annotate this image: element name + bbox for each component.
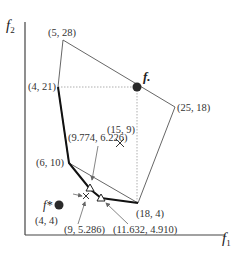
tri2-label: (11.632, 4.910) xyxy=(113,224,178,236)
tri1-label: (9.774, 6.226) xyxy=(68,132,128,144)
f-dot-label: f. xyxy=(143,69,151,84)
ideal-point xyxy=(55,201,64,210)
arrow-cross-bottom xyxy=(78,202,85,224)
f-dot-point xyxy=(133,83,142,92)
objective-space-diagram: f2 f1 (5, 28) (4, 21) (25, 18) (6, 10) (… xyxy=(0,0,242,254)
feasible-region xyxy=(58,40,175,203)
vertex-label-18-4: (18, 4) xyxy=(136,208,164,220)
ideal-point-coord: (4, 4) xyxy=(35,215,58,227)
y-axis-label: f2 xyxy=(6,17,15,35)
cross-marker xyxy=(83,193,89,199)
vertex-label-25-18: (25, 18) xyxy=(177,102,211,114)
vertex-label-5-28: (5, 28) xyxy=(48,27,76,39)
pareto-front xyxy=(58,87,138,203)
vertex-label-6-10: (6, 10) xyxy=(36,157,64,169)
arrow-tri2 xyxy=(106,203,128,224)
x-axis-label: f1 xyxy=(222,230,231,248)
vertex-label-4-21: (4, 21) xyxy=(28,81,56,93)
arrow-cross-left xyxy=(73,194,82,196)
cross1-label: (9, 5.286) xyxy=(64,224,106,236)
arrow-tri1 xyxy=(92,146,98,180)
ideal-point-label: f* xyxy=(43,198,52,212)
